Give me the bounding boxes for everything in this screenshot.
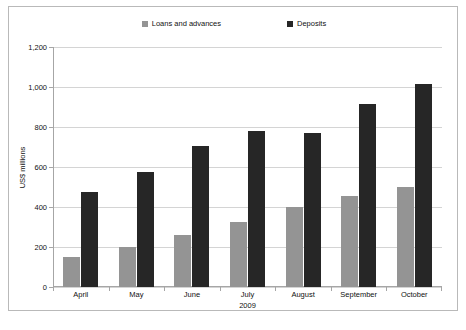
- y-axis-tick-label: 1,000: [28, 82, 47, 91]
- legend-label-deposits: Deposits: [297, 19, 326, 28]
- bar-group-october: [386, 47, 442, 287]
- legend-entry-deposits[interactable]: Deposits: [287, 19, 326, 28]
- bar-group-may: [109, 47, 165, 287]
- legend-swatch-icon-loans: [142, 21, 148, 27]
- x-axis-label-april: April: [53, 290, 109, 299]
- y-axis-tick-label: 600: [34, 163, 47, 172]
- y-axis-tick-label: 1,200: [28, 43, 47, 52]
- bar-june-deposits[interactable]: [192, 146, 209, 287]
- bar-august-loans[interactable]: [286, 207, 303, 287]
- x-axis-label-may: May: [109, 290, 165, 299]
- legend-label-loans: Loans and advances: [152, 19, 221, 28]
- chart-container: Loans and advances Deposits US$ millions…: [0, 0, 466, 330]
- y-axis-title-text: US$ millions: [19, 146, 28, 188]
- x-axis-label-july: July: [220, 290, 276, 299]
- legend-entry-loans-and-advances[interactable]: Loans and advances: [142, 19, 221, 28]
- bar-august-deposits[interactable]: [304, 133, 321, 287]
- bar-june-loans[interactable]: [174, 235, 191, 287]
- chart-frame: Loans and advances Deposits US$ millions…: [8, 6, 458, 311]
- bar-september-deposits[interactable]: [359, 104, 376, 287]
- x-axis-tick-labels: AprilMayJuneJulyAugustSeptemberOctober: [53, 290, 442, 299]
- bar-april-loans[interactable]: [63, 257, 80, 287]
- x-axis-label-october: October: [386, 290, 442, 299]
- bars-layer: [53, 47, 442, 287]
- gridline: [53, 287, 442, 288]
- bar-may-deposits[interactable]: [137, 172, 154, 287]
- bar-april-deposits[interactable]: [81, 192, 98, 287]
- y-axis-tick-label: 800: [34, 122, 47, 131]
- x-axis-label-august: August: [275, 290, 331, 299]
- x-axis-label-june: June: [164, 290, 220, 299]
- y-axis-tick-label: 400: [34, 202, 47, 211]
- bar-july-loans[interactable]: [230, 222, 247, 287]
- x-axis-label-september: September: [331, 290, 387, 299]
- plot-area: 02004006008001,0001,200: [53, 47, 442, 287]
- y-axis-tick-label: 0: [43, 283, 47, 292]
- bar-group-september: [331, 47, 387, 287]
- y-axis-tick-label: 200: [34, 243, 47, 252]
- chart-legend: Loans and advances Deposits: [9, 19, 459, 28]
- bar-group-july: [220, 47, 276, 287]
- bar-group-april: [53, 47, 109, 287]
- bar-group-june: [164, 47, 220, 287]
- bar-may-loans[interactable]: [119, 247, 136, 287]
- bar-october-deposits[interactable]: [415, 84, 432, 287]
- bar-group-august: [275, 47, 331, 287]
- bar-july-deposits[interactable]: [248, 131, 265, 287]
- x-axis-title: 2009: [53, 301, 442, 310]
- legend-swatch-icon-deposits: [287, 21, 293, 27]
- y-axis-title: US$ millions: [17, 47, 29, 287]
- bar-october-loans[interactable]: [397, 187, 414, 287]
- bar-september-loans[interactable]: [341, 196, 358, 287]
